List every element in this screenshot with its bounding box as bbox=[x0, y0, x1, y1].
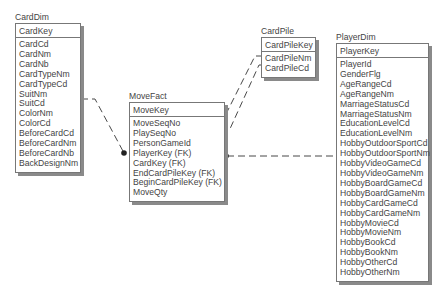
relationship-playerdim-movefact bbox=[223, 153, 335, 159]
attribute: CardPileCd bbox=[265, 64, 312, 74]
entity-box: PlayerKey PlayerId GenderFlg AgeRangeCd … bbox=[336, 43, 429, 282]
attribute: BackDesignNm bbox=[19, 159, 77, 169]
attribute: HobbyCardGameNm bbox=[340, 209, 425, 219]
relationship-carddim-movefact bbox=[81, 99, 127, 156]
entity-title: PlayerDim bbox=[336, 32, 376, 42]
entity-box: CardKey CardCd CardNm CardNb CardTypeNm … bbox=[15, 23, 81, 173]
entity-title: CardPile bbox=[261, 26, 294, 36]
attribute: MoveQty bbox=[133, 188, 221, 198]
primary-key: CardKey bbox=[16, 24, 80, 38]
relationship-cardpile-movefact-2 bbox=[222, 65, 263, 135]
attribute-list: CardCd CardNm CardNb CardTypeNm CardType… bbox=[16, 38, 80, 172]
attribute-list: MoveSeqNo PlaySeqNo PersonGameId PlayerK… bbox=[130, 117, 224, 201]
entity-title: CardDim bbox=[15, 12, 49, 22]
entity-box: CardPileKey CardPileNm CardPileCd bbox=[261, 37, 316, 78]
entity-title: MoveFact bbox=[129, 91, 167, 101]
attribute: HobbyOtherNm bbox=[340, 268, 425, 278]
primary-key: CardPileKey bbox=[262, 38, 315, 52]
attribute-list: CardPileNm CardPileCd bbox=[262, 52, 315, 77]
attribute-list: PlayerId GenderFlg AgeRangeCd AgeRangeNm… bbox=[337, 58, 428, 281]
primary-key: PlayerKey bbox=[337, 44, 428, 58]
entity-box: MoveKey MoveSeqNo PlaySeqNo PersonGameId… bbox=[129, 102, 225, 202]
primary-key: MoveKey bbox=[130, 103, 224, 117]
relationship-cardpile-movefact-1 bbox=[222, 56, 263, 119]
